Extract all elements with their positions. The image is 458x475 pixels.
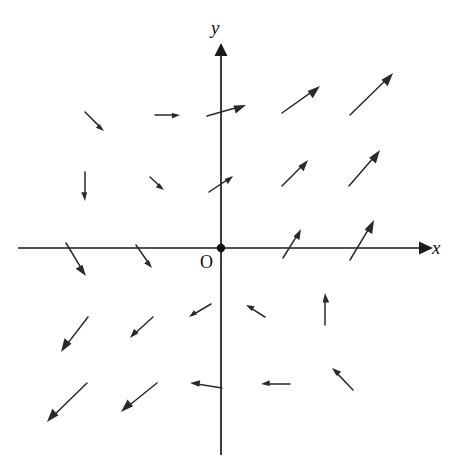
field-arrow-head [190, 380, 200, 387]
field-arrow-head [308, 86, 320, 98]
field-arrow-shaft [350, 226, 370, 260]
x-axis-arrowhead [419, 242, 433, 255]
field-arrow-shaft [350, 78, 388, 115]
field-arrow-head [189, 310, 197, 317]
field-arrow [190, 380, 222, 388]
field-arrow-head [332, 368, 341, 376]
field-arrow [61, 317, 88, 352]
field-arrow [47, 383, 87, 422]
field-arrow-shaft [52, 383, 87, 417]
field-arrow-head [225, 176, 233, 184]
y-axis-arrowhead [215, 43, 228, 56]
field-arrow-head [382, 73, 393, 86]
field-arrow [81, 172, 87, 201]
field-arrow [246, 305, 265, 317]
vector-field-canvas [0, 0, 458, 475]
field-arrow [282, 160, 308, 186]
field-arrow [349, 150, 380, 186]
field-arrow [130, 317, 153, 338]
field-arrow-head [323, 293, 330, 303]
field-arrow-head [298, 160, 308, 171]
field-arrow [155, 113, 180, 118]
x-axis-label: x [432, 238, 440, 257]
field-arrow-shaft [127, 383, 157, 408]
field-arrow-shaft [282, 90, 314, 113]
field-arrow-head [47, 409, 59, 422]
field-arrow [350, 73, 393, 115]
field-arrow-head [144, 260, 152, 268]
field-arrow-head [81, 192, 87, 201]
field-arrow [282, 86, 320, 113]
field-arrow [332, 368, 353, 390]
origin-dot [217, 244, 225, 252]
field-arrow-head [261, 380, 270, 386]
axes-group [18, 43, 433, 455]
field-arrow [350, 220, 374, 260]
origin-label: O [200, 253, 213, 271]
field-arrow [323, 293, 330, 325]
field-arrow-head [121, 399, 133, 412]
field-arrow [189, 304, 211, 317]
field-arrow-shaft [349, 155, 375, 186]
field-arrow-head [76, 265, 86, 276]
field-arrow [85, 112, 104, 131]
field-arrow-head [172, 113, 180, 118]
field-arrow [150, 177, 164, 190]
vector-field-figure: y x O [0, 0, 458, 475]
y-axis-label: y [211, 18, 219, 37]
field-arrow-head [130, 329, 138, 338]
field-arrow [261, 380, 290, 386]
field-arrow-head [234, 105, 246, 113]
field-arrow [283, 229, 301, 258]
field-arrow [207, 105, 246, 116]
field-arrow [121, 383, 157, 412]
